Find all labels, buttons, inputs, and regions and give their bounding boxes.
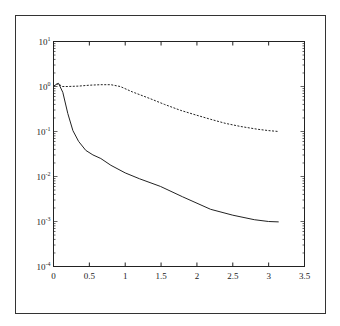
x-tick-label: 2.5	[227, 271, 239, 281]
y-tick-label: 10-4	[37, 261, 51, 272]
x-tick-label: 0	[51, 271, 56, 281]
x-tick-label: 3	[266, 271, 271, 281]
y-tick-label: 10-3	[37, 216, 51, 227]
outer-frame	[16, 16, 326, 314]
series-dashed	[54, 84, 279, 132]
y-tick-label: 10-2	[37, 171, 51, 182]
x-tick-label: 0.5	[84, 271, 96, 281]
series-solid	[54, 83, 279, 222]
y-tick-label: 100	[39, 81, 51, 92]
x-tick-label: 1.5	[155, 271, 167, 281]
x-tick-label: 3.5	[299, 271, 311, 281]
x-tick-label: 2	[195, 271, 200, 281]
series-group	[54, 83, 279, 222]
x-tick-label: 1	[123, 271, 128, 281]
y-tick-label: 10-1	[37, 126, 51, 137]
line-chart: 00.511.522.533.510110010-110-210-310-4	[0, 0, 340, 326]
y-tick-label: 101	[39, 36, 51, 47]
axis-labels: 00.511.522.533.510110010-110-210-310-4	[37, 36, 311, 281]
